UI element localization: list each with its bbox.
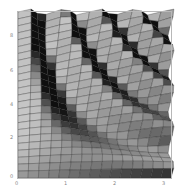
surface-plot: 0 2 4 6 8 0 1 2 3 <box>0 0 182 188</box>
y-tick-label: 6 <box>10 68 13 73</box>
plot-frame <box>17 11 172 179</box>
x-tick-label: 1 <box>64 181 67 186</box>
y-tick-label: 8 <box>10 33 13 38</box>
y-tick-label: 2 <box>10 135 13 140</box>
x-tick-label: 3 <box>162 181 165 186</box>
x-tick-label: 2 <box>113 181 116 186</box>
x-tick-label: 0 <box>15 181 18 186</box>
y-tick-label: 0 <box>10 174 13 179</box>
y-tick-label: 4 <box>10 102 13 107</box>
